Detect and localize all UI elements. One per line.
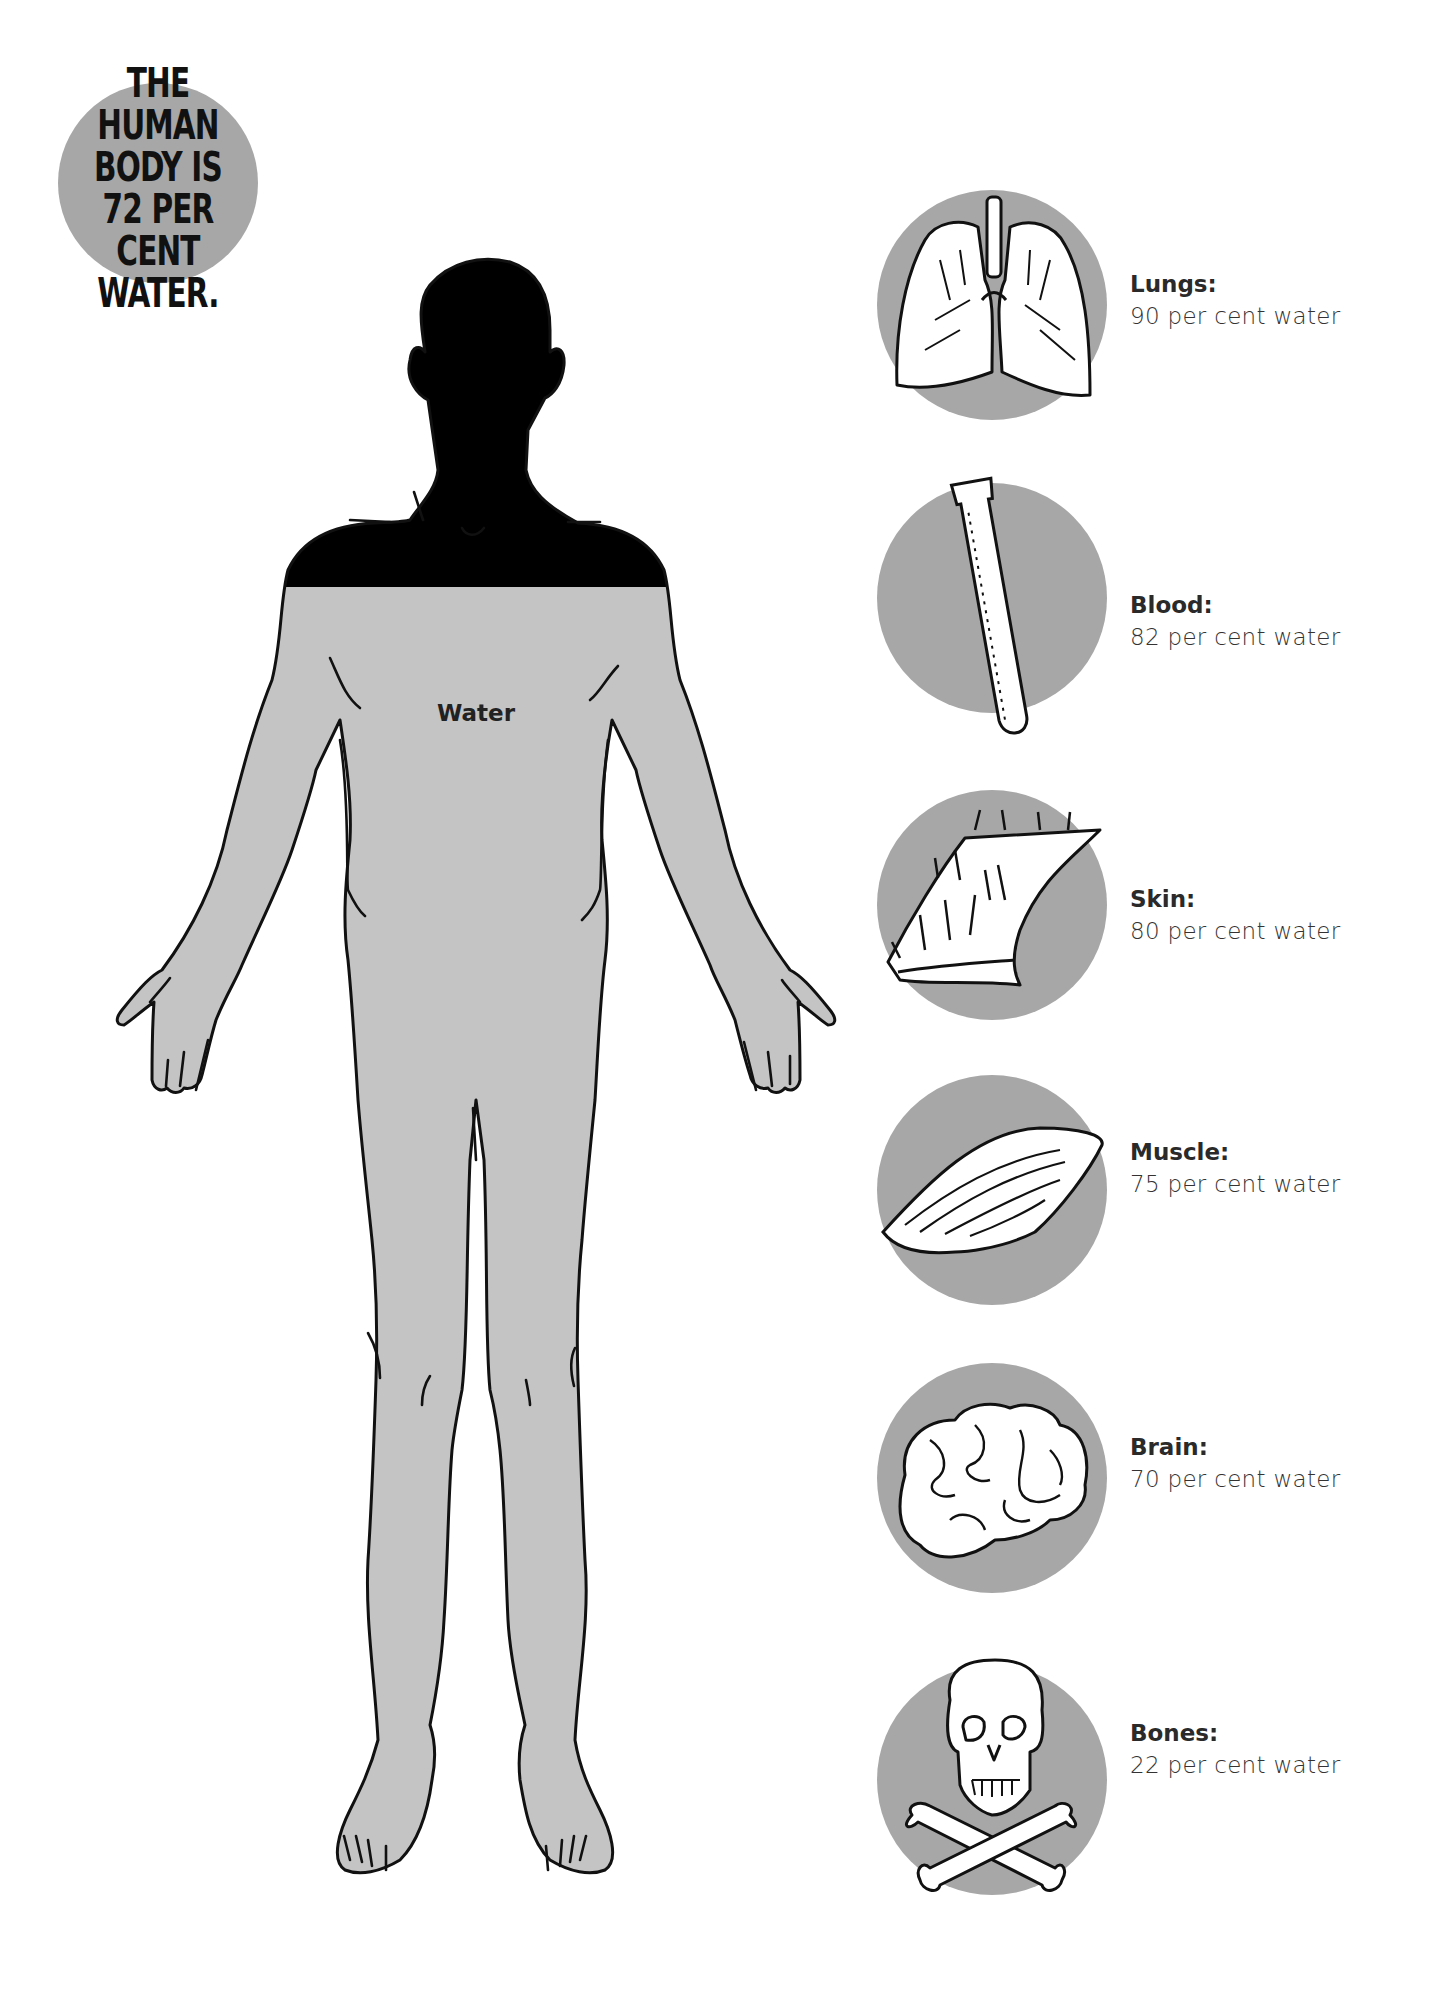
organ-name: Skin: xyxy=(1130,883,1340,915)
water-label: Water xyxy=(437,700,515,726)
organ-label-lungs: Lungs: 90 per cent water xyxy=(1130,268,1340,332)
organ-label-blood: Blood: 82 per cent water xyxy=(1130,589,1340,653)
organ-name: Blood: xyxy=(1130,589,1340,621)
organ-label-skin: Skin: 80 per cent water xyxy=(1130,883,1340,947)
organ-value: 90 per cent water xyxy=(1130,300,1340,332)
organ-value: 82 per cent water xyxy=(1130,621,1340,653)
organ-label-bones: Bones: 22 per cent water xyxy=(1130,1717,1340,1781)
organ-name: Muscle: xyxy=(1130,1136,1340,1168)
infographic: THE HUMAN BODY IS 72 PER CENT WATER. xyxy=(0,0,1431,1994)
organ-name: Lungs: xyxy=(1130,268,1340,300)
organ-label-brain: Brain: 70 per cent water xyxy=(1130,1431,1340,1495)
organ-name: Bones: xyxy=(1130,1717,1340,1749)
organ-value: 22 per cent water xyxy=(1130,1749,1340,1781)
organ-value: 70 per cent water xyxy=(1130,1463,1340,1495)
organ-name: Brain: xyxy=(1130,1431,1340,1463)
organ-value: 75 per cent water xyxy=(1130,1168,1340,1200)
organ-label-muscle: Muscle: 75 per cent water xyxy=(1130,1136,1340,1200)
organ-value: 80 per cent water xyxy=(1130,915,1340,947)
